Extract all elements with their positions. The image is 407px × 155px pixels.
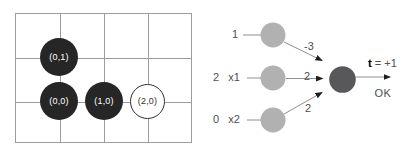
threshold-label: t= +1 — [368, 57, 397, 69]
input-node-x1 — [261, 66, 286, 91]
threshold-equation: = +1 — [375, 57, 397, 69]
input-node-x2 — [261, 108, 286, 133]
threshold-variable: t — [368, 57, 372, 69]
input-value-bias: 1 — [228, 28, 242, 40]
weight-label-x1: 2 — [300, 70, 314, 82]
perceptron-figure: (0,1) (0,0) (1,0) (2,0) 1 2 — [0, 0, 407, 155]
output-node — [329, 66, 356, 93]
weight-label-x2: 2 — [301, 102, 315, 114]
input-name-x1: x1 — [226, 71, 242, 83]
input-name-x2: x2 — [226, 113, 242, 125]
network-diagram — [0, 0, 407, 155]
input-value-x2: 0 — [209, 113, 223, 125]
input-value-x1: 2 — [209, 71, 223, 83]
weight-label-bias: -3 — [299, 40, 319, 52]
input-node-bias — [261, 23, 286, 48]
output-result-label: OK — [372, 87, 394, 99]
